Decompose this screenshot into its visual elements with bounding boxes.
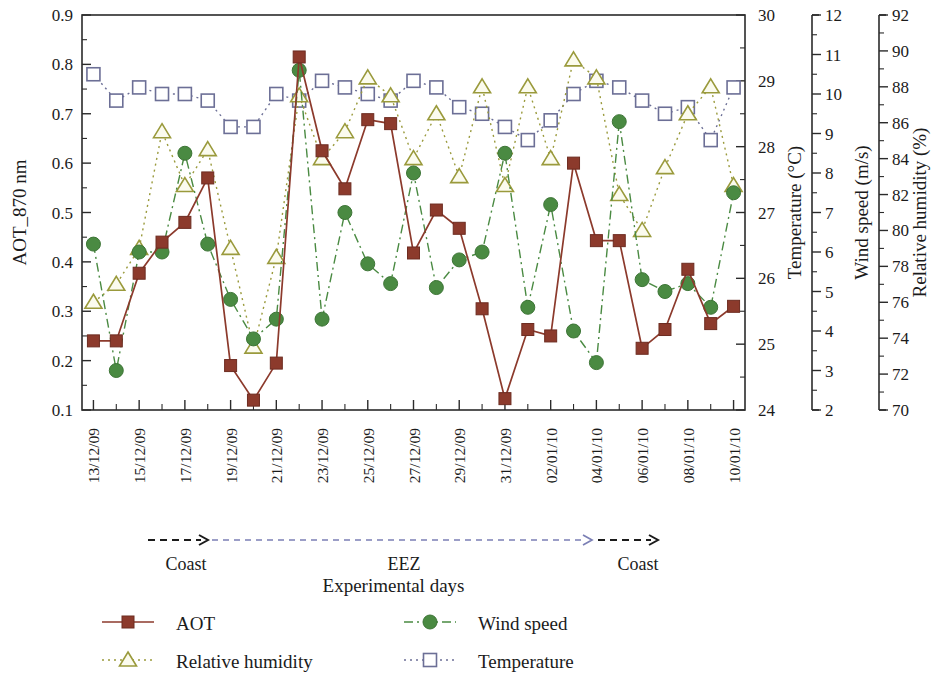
data-point-temp: [178, 88, 191, 101]
wind-tick-label: 10: [825, 85, 842, 104]
data-point-aot: [156, 236, 168, 248]
date-tick-label: 02/01/10: [543, 428, 560, 483]
data-point-aot: [728, 300, 740, 312]
data-point-temp: [727, 81, 740, 94]
data-point-aot: [545, 330, 557, 342]
legend-item-relative-humidity[interactable]: Relative humidity: [102, 651, 313, 672]
series-layer: [85, 51, 742, 406]
wind-tick-label: 2: [825, 401, 834, 420]
data-point-aot: [316, 145, 328, 157]
chart-legend: AOTWind speedRelative humidityTemperatur…: [102, 613, 574, 672]
data-point-rh: [154, 124, 171, 138]
data-point-aot: [362, 114, 374, 126]
data-point-aot: [385, 118, 397, 130]
data-point-temp: [407, 74, 420, 87]
data-point-temp: [247, 120, 260, 133]
legend-item-wind-speed[interactable]: Wind speed: [404, 613, 568, 634]
aot-meteorology-chart: 0.10.20.30.40.50.60.70.80.9AOT_870 nm 24…: [0, 0, 934, 674]
data-point-temp: [361, 88, 374, 101]
humidity-tick-label: 86: [892, 114, 909, 133]
data-point-temp: [110, 94, 123, 107]
axis-relative-humidity: 707274767880828486889092Relative humidit…: [879, 6, 931, 420]
data-point-wind: [727, 186, 741, 200]
data-point-wind: [178, 146, 192, 160]
data-point-temp: [270, 88, 283, 101]
humidity-tick-label: 70: [892, 401, 909, 420]
data-point-wind: [475, 245, 489, 259]
legend-item-aot[interactable]: AOT: [102, 613, 215, 634]
data-point-wind: [407, 166, 421, 180]
aot-axis-title: AOT_870 nm: [9, 159, 30, 265]
humidity-tick-label: 78: [892, 257, 909, 276]
data-point-wind: [498, 146, 512, 160]
temperature-tick-label: 28: [758, 138, 775, 157]
temperature-tick-label: 25: [758, 335, 775, 354]
data-point-rh: [359, 70, 376, 84]
data-point-aot: [270, 357, 282, 369]
legend-marker-aot: [122, 616, 134, 628]
data-point-temp: [658, 107, 671, 120]
region-label-coast-left: Coast: [165, 554, 206, 574]
data-point-aot: [408, 247, 420, 259]
data-point-wind: [338, 206, 352, 220]
date-tick-label: 13/12/09: [85, 428, 102, 483]
humidity-tick-label: 82: [892, 186, 909, 205]
humidity-tick-label: 92: [892, 6, 909, 25]
data-point-rh: [702, 79, 719, 93]
wind-tick-label: 3: [825, 362, 834, 381]
data-point-temp: [567, 88, 580, 101]
data-point-rh: [542, 151, 559, 165]
aot-tick-label: 0.8: [52, 55, 73, 74]
date-tick-label: 31/12/09: [497, 428, 514, 483]
humidity-tick-label: 88: [892, 78, 909, 97]
data-point-rh: [85, 294, 102, 308]
data-point-temp: [704, 134, 717, 147]
region-arrow-head: [583, 535, 592, 545]
date-tick-label: 15/12/09: [131, 428, 148, 483]
data-point-rh: [656, 160, 673, 174]
date-tick-label: 29/12/09: [451, 428, 468, 483]
data-point-aot: [202, 172, 214, 184]
data-point-wind: [635, 273, 649, 287]
data-point-temp: [430, 81, 443, 94]
data-point-wind: [86, 237, 100, 251]
date-tick-label: 04/01/10: [588, 428, 605, 483]
rh-axis-title: Relative humidity (%): [909, 128, 931, 298]
date-tick-label: 23/12/09: [314, 428, 331, 483]
data-point-aot: [133, 267, 145, 279]
legend-item-temperature[interactable]: Temperature: [404, 651, 574, 672]
data-point-wind: [658, 285, 672, 299]
data-point-rh: [519, 79, 536, 93]
data-point-wind: [361, 257, 375, 271]
data-point-wind: [109, 364, 123, 378]
temp-axis-title: Temperature (°C): [784, 146, 806, 279]
data-point-wind: [612, 115, 626, 129]
data-point-aot: [682, 263, 694, 275]
data-point-rh: [611, 187, 628, 201]
date-tick-label: 21/12/09: [268, 428, 285, 483]
aot-tick-label: 0.3: [52, 302, 73, 321]
data-point-aot: [247, 394, 259, 406]
data-point-temp: [224, 120, 237, 133]
data-point-temp: [316, 74, 329, 87]
figure-container: 0.10.20.30.40.50.60.70.80.9AOT_870 nm 24…: [0, 0, 934, 674]
legend-marker-rh: [120, 652, 137, 666]
wind-tick-label: 11: [825, 46, 841, 65]
data-point-aot: [705, 318, 717, 330]
wind-tick-label: 6: [825, 243, 834, 262]
aot-tick-label: 0.4: [52, 253, 74, 272]
data-point-wind: [315, 312, 329, 326]
date-tick-label: 27/12/09: [406, 428, 423, 483]
data-point-rh: [565, 52, 582, 66]
data-point-aot: [293, 51, 305, 63]
data-point-temp: [521, 134, 534, 147]
data-point-temp: [201, 94, 214, 107]
data-point-rh: [108, 276, 125, 290]
date-tick-label: 19/12/09: [223, 428, 240, 483]
data-point-rh: [474, 79, 491, 93]
axis-wind-speed: 23456789101112Wind speed (m/s): [812, 6, 873, 420]
data-point-aot: [110, 335, 122, 347]
date-tick-label: 25/12/09: [360, 428, 377, 483]
wind-axis-title: Wind speed (m/s): [851, 145, 873, 279]
data-point-wind: [589, 356, 603, 370]
